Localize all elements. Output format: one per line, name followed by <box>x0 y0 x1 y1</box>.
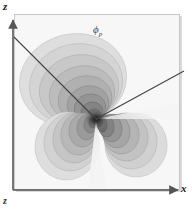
corner-axis-label: z <box>3 197 7 206</box>
z-axis-label: z <box>3 0 7 12</box>
x-axis-label: x <box>181 182 187 194</box>
phi-subscript: p <box>99 30 103 38</box>
field-symbol-label: ϕp <box>93 23 102 38</box>
figure-container: z x z ϕp <box>0 0 192 212</box>
outgoing-ray <box>96 71 184 119</box>
incoming-ray <box>14 37 97 120</box>
